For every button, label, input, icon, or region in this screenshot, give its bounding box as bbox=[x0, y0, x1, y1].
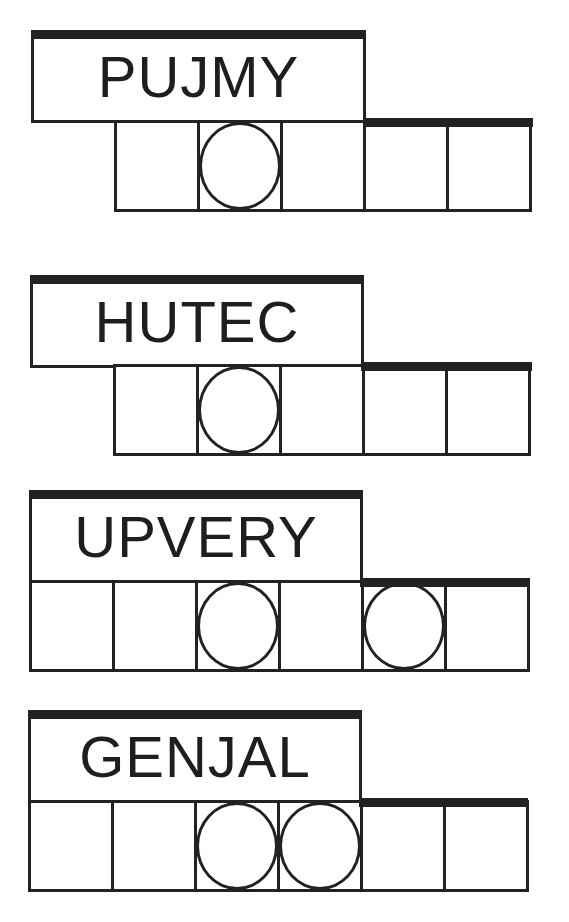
letter-tile[interactable] bbox=[195, 580, 281, 672]
clue-box: UPVERY bbox=[29, 490, 363, 583]
letter-tile[interactable] bbox=[280, 120, 366, 212]
letter-tile[interactable] bbox=[278, 580, 364, 672]
letter-tile[interactable] bbox=[28, 800, 114, 892]
letter-tile[interactable] bbox=[443, 800, 529, 892]
scrambled-word: HUTEC bbox=[95, 293, 300, 351]
clue-box: HUTEC bbox=[30, 275, 364, 368]
letter-tile[interactable] bbox=[445, 364, 531, 456]
letter-tile[interactable] bbox=[363, 120, 449, 212]
letter-tile[interactable] bbox=[361, 580, 447, 672]
scrambled-word: PUJMY bbox=[98, 48, 300, 106]
circle-marker-icon bbox=[363, 582, 445, 670]
circle-marker-icon bbox=[279, 802, 361, 890]
answer-tiles bbox=[29, 580, 530, 672]
thick-rule bbox=[361, 362, 532, 371]
circle-marker-icon bbox=[199, 122, 281, 210]
thick-rule bbox=[359, 798, 528, 807]
answer-tiles bbox=[113, 364, 531, 456]
clue-box: GENJAL bbox=[28, 710, 362, 803]
letter-tile[interactable] bbox=[111, 800, 197, 892]
letter-tile[interactable] bbox=[362, 364, 448, 456]
letter-tile[interactable] bbox=[29, 580, 115, 672]
letter-tile[interactable] bbox=[277, 800, 363, 892]
letter-tile[interactable] bbox=[197, 120, 283, 212]
letter-tile[interactable] bbox=[446, 120, 532, 212]
circle-marker-icon bbox=[196, 802, 278, 890]
circle-marker-icon bbox=[197, 582, 279, 670]
scrambled-word: GENJAL bbox=[79, 728, 311, 786]
circle-marker-icon bbox=[198, 366, 280, 454]
letter-tile[interactable] bbox=[360, 800, 446, 892]
scrambled-word: UPVERY bbox=[74, 508, 317, 566]
letter-tile[interactable] bbox=[112, 580, 198, 672]
clue-box: PUJMY bbox=[31, 30, 366, 123]
thick-rule bbox=[363, 118, 533, 127]
thick-rule bbox=[360, 578, 530, 587]
answer-tiles bbox=[28, 800, 529, 892]
letter-tile[interactable] bbox=[196, 364, 282, 456]
letter-tile[interactable] bbox=[444, 580, 530, 672]
letter-tile[interactable] bbox=[114, 120, 200, 212]
letter-tile[interactable] bbox=[279, 364, 365, 456]
letter-tile[interactable] bbox=[113, 364, 199, 456]
letter-tile[interactable] bbox=[194, 800, 280, 892]
answer-tiles bbox=[114, 120, 532, 212]
